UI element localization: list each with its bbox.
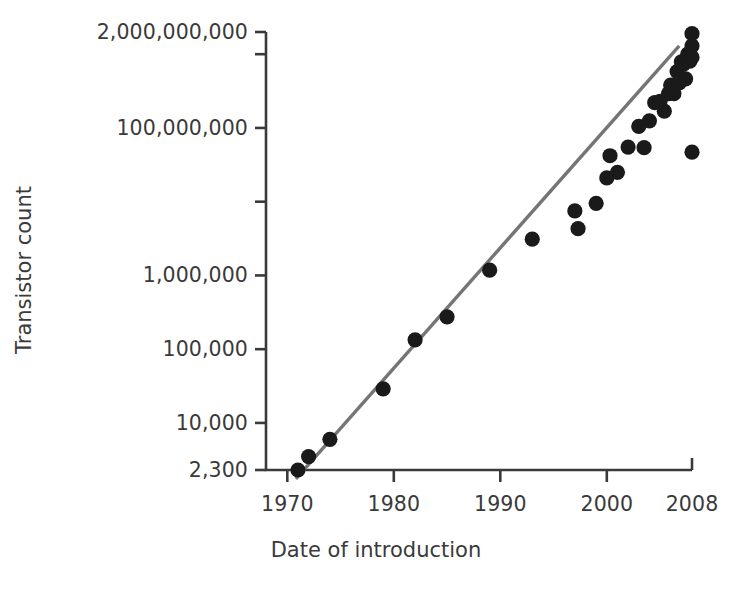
y-tick-label: 100,000 (163, 337, 248, 361)
scatter-point (610, 165, 625, 180)
axis-lines (266, 32, 692, 470)
x-axis-ticks (287, 470, 607, 482)
scatter-point (301, 449, 316, 464)
y-tick-label: 1,000,000 (143, 263, 248, 287)
y-tick-label: 2,000,000,000 (97, 20, 248, 44)
scatter-point (602, 148, 617, 163)
scatter-point (376, 381, 391, 396)
scatter-point (657, 104, 672, 119)
x-tick-label: 1990 (474, 492, 527, 516)
scatter-point (684, 50, 699, 65)
trend-line-segment (296, 46, 679, 479)
scatter-point (290, 462, 305, 477)
scatter-point (678, 71, 693, 86)
trend-line (296, 46, 679, 479)
x-axis-title: Date of introduction (0, 538, 752, 562)
scatter-point (408, 332, 423, 347)
scatter-point (482, 263, 497, 278)
y-tick-label: 100,000,000 (116, 116, 248, 140)
x-tick-label: 2008 (666, 492, 719, 516)
scatter-point (439, 309, 454, 324)
transistor-count-chart: 2,30010,000100,0001,000,000100,000,0002,… (0, 0, 752, 594)
axis-spine (266, 32, 692, 470)
x-tick-label: 1970 (261, 492, 314, 516)
y-axis-title: Transistor count (12, 160, 36, 380)
scatter-point (567, 203, 582, 218)
x-tick-label: 2000 (581, 492, 634, 516)
scatter-point (322, 432, 337, 447)
x-tick-label: 1980 (368, 492, 421, 516)
scatter-point (525, 232, 540, 247)
scatter-point (589, 196, 604, 211)
scatter-point (621, 139, 636, 154)
scatter-point (636, 140, 651, 155)
y-axis-ticks (255, 32, 266, 470)
y-tick-label: 2,300 (189, 458, 248, 482)
scatter-point (684, 145, 699, 160)
scatter-point (642, 113, 657, 128)
scatter-point (570, 221, 585, 236)
y-tick-label: 10,000 (176, 411, 248, 435)
